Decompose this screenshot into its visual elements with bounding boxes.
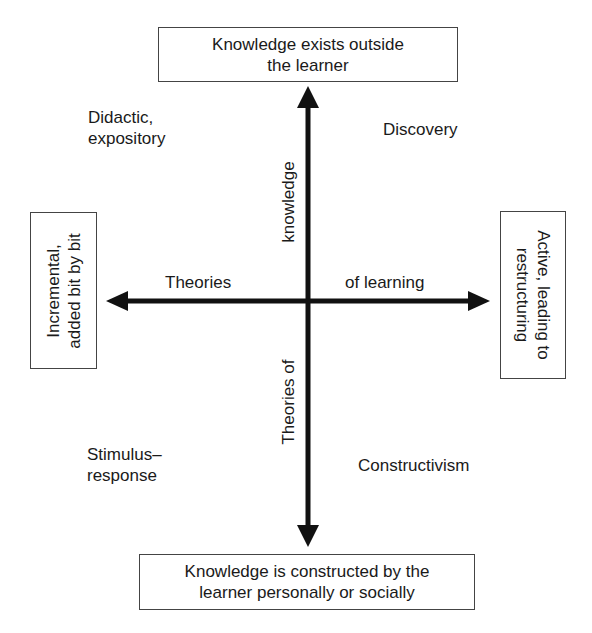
bottom-pole-line-1: Knowledge is constructed by the <box>185 561 430 582</box>
quadrant-bottom-right: Constructivism <box>358 455 469 476</box>
quadrant-bottom-left-line-2: response <box>87 465 162 486</box>
quadrant-bottom-right-line-1: Constructivism <box>358 455 469 476</box>
right-pole-line-1: Active, leading to <box>533 230 554 359</box>
quadrant-top-left-line-1: Didactic, <box>88 107 165 128</box>
right-pole-box: Active, leading to restructuring <box>500 211 566 379</box>
left-pole-box: Incremental, added bit by bit <box>30 212 97 369</box>
top-pole-line-2: the learner <box>267 55 348 76</box>
right-pole-text: Active, leading to restructuring <box>512 230 554 359</box>
left-pole-text: Incremental, added bit by bit <box>43 233 85 348</box>
quadrant-top-left: Didactic, expository <box>88 107 165 149</box>
right-pole-line-2: restructuring <box>512 230 533 359</box>
quadrant-bottom-left-line-1: Stimulus– <box>87 444 162 465</box>
top-pole-box: Knowledge exists outside the learner <box>158 27 458 82</box>
left-pole-line-1: Incremental, <box>43 233 64 348</box>
quadrant-top-right: Discovery <box>383 119 458 140</box>
quadrant-top-right-line-1: Discovery <box>383 119 458 140</box>
bottom-pole-box: Knowledge is constructed by the learner … <box>139 554 475 610</box>
bottom-pole-line-2: learner personally or socially <box>199 582 414 603</box>
left-pole-line-2: added bit by bit <box>64 233 85 348</box>
vertical-axis-label-lower: Theories of <box>279 359 299 444</box>
arrow-up-icon <box>297 86 319 108</box>
horizontal-axis-label-left: Theories <box>165 273 231 293</box>
quadrant-bottom-left: Stimulus– response <box>87 444 162 486</box>
quadrant-top-left-line-2: expository <box>88 128 165 149</box>
arrow-left-icon <box>106 291 128 311</box>
vertical-axis-label-upper: knowledge <box>279 161 299 242</box>
arrow-down-icon <box>297 525 319 547</box>
horizontal-axis-label-right: of learning <box>345 273 424 293</box>
arrow-right-icon <box>468 291 490 311</box>
top-pole-line-1: Knowledge exists outside <box>212 34 404 55</box>
